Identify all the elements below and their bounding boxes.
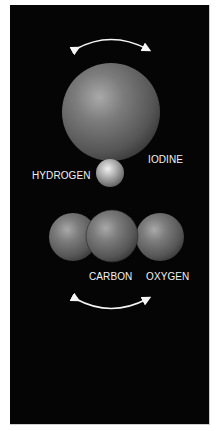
molecule-diagram — [0, 0, 219, 431]
iodine-atom — [62, 63, 160, 161]
oxygen-atom-right — [136, 213, 184, 261]
carbon-label: CARBON — [89, 272, 132, 282]
hydrogen-label: HYDROGEN — [32, 171, 91, 181]
carbon-atom — [86, 210, 138, 262]
hydrogen-atom — [96, 159, 124, 187]
rotation-arrow-top-icon — [76, 40, 147, 50]
oxygen-label: OXYGEN — [146, 272, 189, 282]
iodine-label: IODINE — [148, 155, 183, 165]
rotation-arrow-bottom-icon — [76, 299, 147, 309]
